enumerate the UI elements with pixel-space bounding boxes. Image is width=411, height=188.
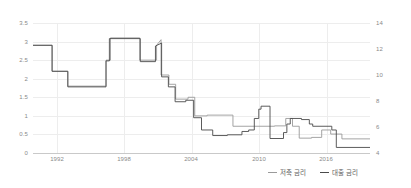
y-axis-left-tick-6: 0.5 [2,131,28,137]
legend-item-savings-rate[interactable]: 저축 금리 [268,167,306,177]
series-layer [33,23,370,153]
x-axis-tick-1992: 1992 [37,156,77,162]
y-axis-left-tick-7: 0 [2,150,28,156]
y-axis-right-tick-5: 4 [376,150,402,156]
x-axis-tick-2010: 2010 [239,156,279,162]
y-axis-right-tick-2: 10 [376,72,402,78]
series-line-loan-rate [33,39,370,148]
y-axis-right-tick-3: 8 [376,98,402,104]
legend-line-icon-savings-rate [268,172,277,173]
y-axis-left-tick-5: 1 [2,113,28,119]
gridline-h-0-baseline [33,153,370,154]
y-axis-right-tick-0: 14 [376,20,402,26]
y-axis-left-tick-3: 2 [2,76,28,82]
plot-area [33,23,370,153]
y-axis-left-tick-2: 2.5 [2,57,28,63]
x-axis-tick-2016: 2016 [306,156,346,162]
y-axis-left-tick-1: 3 [2,39,28,45]
legend-item-loan-rate[interactable]: 대출 금리 [320,167,358,177]
legend: 저축 금리 대출 금리 [268,167,358,177]
legend-label-loan-rate: 대출 금리 [332,167,358,177]
x-axis-tick-1998: 1998 [104,156,144,162]
x-axis-tick-2004: 2004 [171,156,211,162]
y-axis-left-tick-4: 1.5 [2,94,28,100]
y-axis-right-tick-4: 6 [376,124,402,130]
y-axis-right-tick-1: 12 [376,46,402,52]
interest-rate-chart: 3.5 3 2.5 2 1.5 1 0.5 0 14 12 10 8 6 4 1… [0,0,411,188]
legend-label-savings-rate: 저축 금리 [280,167,306,177]
y-axis-left-tick-0: 3.5 [2,20,28,26]
legend-line-icon-loan-rate [320,172,329,173]
